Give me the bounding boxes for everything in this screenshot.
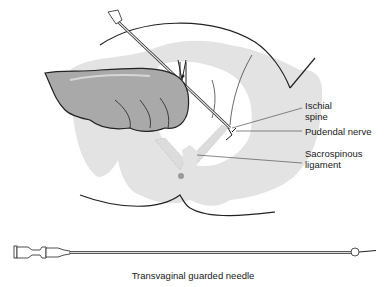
label-sacrospinous-ligament: Sacrospinous ligament — [305, 148, 363, 170]
retractor-rivet — [182, 75, 185, 78]
gloved-hand — [45, 68, 189, 131]
label-pudendal-nerve: Pudendal nerve — [305, 126, 372, 137]
label-ischial-spine: Ischial spine — [305, 100, 332, 122]
anus-marker — [178, 173, 184, 179]
figure-caption: Transvaginal guarded needle — [0, 270, 386, 281]
transvaginal-guarded-needle — [14, 246, 376, 258]
pelvic-anatomy-illustration — [0, 0, 386, 287]
